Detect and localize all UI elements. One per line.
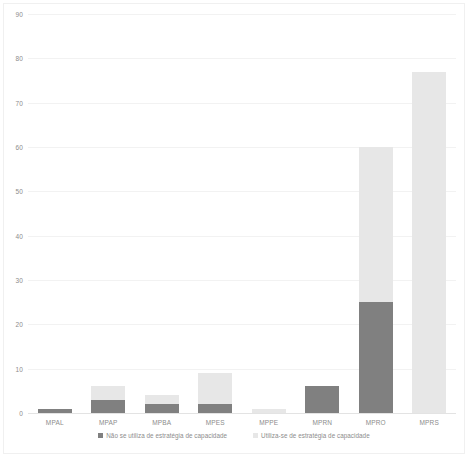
legend-label: Não se utiliza de estratégia de capacida… bbox=[106, 432, 227, 439]
bar-segment-nao-utiliza[interactable] bbox=[305, 386, 339, 413]
bar-group-mppe[interactable]: MPPE bbox=[242, 14, 296, 413]
y-axis-tick-label: 60 bbox=[16, 144, 23, 151]
y-axis-tick-label: 70 bbox=[16, 99, 23, 106]
gridline bbox=[28, 413, 456, 414]
stacked-bar[interactable] bbox=[91, 386, 125, 413]
bar-segment-utiliza[interactable] bbox=[252, 409, 286, 413]
bar-segment-nao-utiliza[interactable] bbox=[198, 404, 232, 413]
chart-figure: 0102030405060708090 MPALMPAPMPBAMPESMPPE… bbox=[0, 0, 468, 457]
x-axis-tick-label: MPAP bbox=[99, 419, 118, 426]
stacked-bar[interactable] bbox=[145, 395, 179, 413]
x-axis-tick-label: MPES bbox=[206, 419, 225, 426]
y-axis-tick-label: 50 bbox=[16, 188, 23, 195]
bar-segment-nao-utiliza[interactable] bbox=[91, 400, 125, 413]
stacked-bar[interactable] bbox=[252, 409, 286, 413]
stacked-bar[interactable] bbox=[38, 409, 72, 413]
x-axis-tick-label: MPRN bbox=[312, 419, 332, 426]
bars-group: MPALMPAPMPBAMPESMPPEMPRNMPROMPRS bbox=[28, 14, 456, 413]
bar-segment-nao-utiliza[interactable] bbox=[145, 404, 179, 413]
y-axis-tick-label: 0 bbox=[19, 410, 23, 417]
x-axis-tick-label: MPPE bbox=[259, 419, 278, 426]
bar-group-mpba[interactable]: MPBA bbox=[135, 14, 189, 413]
bar-segment-utiliza[interactable] bbox=[359, 147, 393, 302]
y-axis-tick-label: 20 bbox=[16, 321, 23, 328]
bar-group-mpap[interactable]: MPAP bbox=[82, 14, 136, 413]
y-axis-tick-label: 30 bbox=[16, 277, 23, 284]
bar-segment-nao-utiliza[interactable] bbox=[359, 302, 393, 413]
bar-group-mprn[interactable]: MPRN bbox=[296, 14, 350, 413]
bar-segment-nao-utiliza[interactable] bbox=[38, 409, 72, 413]
legend-item[interactable]: Não se utiliza de estratégia de capacida… bbox=[98, 432, 227, 439]
stacked-bar[interactable] bbox=[359, 147, 393, 413]
stacked-bar[interactable] bbox=[412, 72, 446, 413]
bar-group-mpal[interactable]: MPAL bbox=[28, 14, 82, 413]
chart-legend: Não se utiliza de estratégia de capacida… bbox=[0, 432, 468, 439]
bar-segment-utiliza[interactable] bbox=[145, 395, 179, 404]
stacked-bar[interactable] bbox=[198, 373, 232, 413]
x-axis-tick-label: MPAL bbox=[46, 419, 64, 426]
bar-segment-utiliza[interactable] bbox=[91, 386, 125, 399]
bar-group-mpro[interactable]: MPRO bbox=[349, 14, 403, 413]
legend-item[interactable]: Utiliza-se de estratégia de capacidade bbox=[253, 432, 370, 439]
y-axis-tick-label: 90 bbox=[16, 11, 23, 18]
x-axis-tick-label: MPBA bbox=[152, 419, 171, 426]
plot-area: 0102030405060708090 MPALMPAPMPBAMPESMPPE… bbox=[28, 14, 456, 413]
bar-group-mpes[interactable]: MPES bbox=[189, 14, 243, 413]
stacked-bar[interactable] bbox=[305, 386, 339, 413]
legend-swatch-icon bbox=[253, 433, 258, 438]
bar-segment-utiliza[interactable] bbox=[412, 72, 446, 413]
legend-swatch-icon bbox=[98, 433, 103, 438]
legend-label: Utiliza-se de estratégia de capacidade bbox=[261, 432, 370, 439]
y-axis-tick-label: 40 bbox=[16, 232, 23, 239]
x-axis-tick-label: MPRO bbox=[366, 419, 386, 426]
y-axis-tick-label: 10 bbox=[16, 365, 23, 372]
bar-segment-utiliza[interactable] bbox=[198, 373, 232, 404]
bar-group-mprs[interactable]: MPRS bbox=[403, 14, 457, 413]
x-axis-tick-label: MPRS bbox=[420, 419, 439, 426]
y-axis-tick-label: 80 bbox=[16, 55, 23, 62]
